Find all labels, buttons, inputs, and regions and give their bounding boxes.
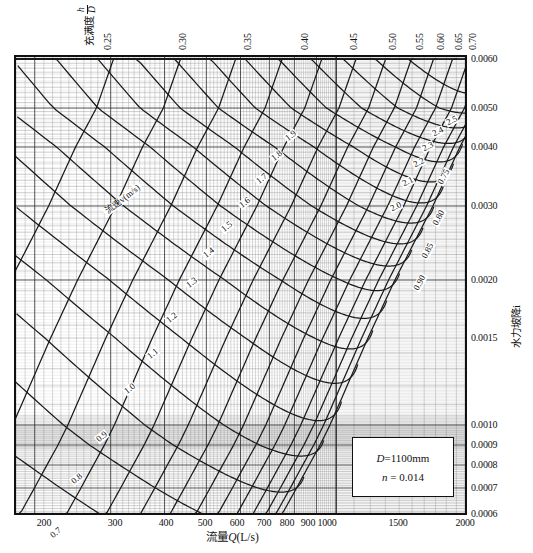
x-tick-label: 300: [108, 517, 122, 528]
top-tick-label: 0.60: [435, 33, 446, 50]
top-axis-title-fraction: h D: [77, 5, 97, 14]
top-tick-label: 0.65: [453, 33, 464, 50]
x-tick-label: 800: [280, 517, 294, 528]
x-axis-title: 流量Q(L/s): [0, 528, 465, 544]
right-axis-title: 水力坡降i: [508, 305, 523, 348]
x-tick-label: 700: [257, 517, 271, 528]
x-tick-label: 2000: [455, 517, 474, 528]
y-tick-label: 0.0020: [471, 274, 497, 285]
y-tick-label: 0.0010: [471, 419, 497, 430]
y-tick-label: 0.0006: [471, 508, 497, 519]
nomograph-figure: 充满度 h D 0.250.300.350.400.450.500.550.60…: [0, 0, 533, 553]
pipe-diameter-symbol: D: [377, 452, 385, 464]
x-tick-label: 500: [198, 517, 212, 528]
fraction-denominator: D: [87, 5, 98, 14]
y-tick-label: 0.0030: [471, 200, 497, 211]
x-tick-label: 600: [230, 517, 244, 528]
roughness-row: n = 0.014: [382, 471, 424, 483]
x-tick-label: 1000: [317, 517, 336, 528]
top-tick-label: 0.30: [177, 33, 188, 50]
y-tick-label: 0.0007: [471, 482, 497, 493]
pipe-diameter-value: =1100mm: [385, 452, 430, 464]
top-tick-label: 0.50: [387, 33, 398, 50]
x-tick-label: 1500: [388, 517, 407, 528]
top-axis-title: 充满度 h D: [78, 5, 98, 46]
top-tick-label: 0.70: [467, 33, 478, 50]
y-tick-label: 0.0009: [471, 439, 497, 450]
pipe-diameter-row: D=1100mm: [377, 452, 430, 464]
right-axis-title-text: 水力坡降i: [511, 305, 522, 348]
roughness-symbol: n: [382, 471, 388, 483]
y-tick-label: 0.0015: [471, 332, 497, 343]
top-tick-label: 0.40: [299, 33, 310, 50]
x-tick-label: 200: [37, 517, 51, 528]
roughness-value: = 0.014: [390, 471, 424, 483]
fraction-numerator: h: [77, 6, 87, 13]
top-tick-label: 0.45: [348, 33, 359, 50]
y-tick-label: 0.0060: [471, 53, 497, 64]
x-tick-label: 900: [301, 517, 315, 528]
x-axis-title-unit: (L/s): [236, 531, 258, 543]
y-tick-label: 0.0040: [471, 141, 497, 152]
top-tick-label: 0.25: [102, 33, 113, 50]
top-tick-label: 0.35: [242, 33, 253, 50]
top-axis-title-cn: 充满度: [81, 16, 96, 46]
top-tick-label: 0.55: [414, 33, 425, 50]
parameter-info-box: D=1100mm n = 0.014: [352, 437, 454, 497]
y-tick-label: 0.0008: [471, 459, 497, 470]
x-axis-title-cn: 流量: [206, 531, 228, 543]
y-tick-label: 0.0050: [471, 102, 497, 113]
x-tick-label: 400: [159, 517, 173, 528]
